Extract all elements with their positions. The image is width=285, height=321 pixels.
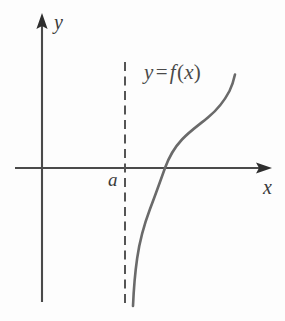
asymptote-value-label: a (108, 170, 118, 189)
curve-label-arg: x (184, 60, 194, 84)
curve-label-equals: = (154, 60, 170, 84)
curve-label-y: y (144, 60, 154, 84)
figure-canvas (0, 0, 285, 321)
function-curve (133, 75, 235, 307)
curve-equation-label: y=f(x) (144, 62, 201, 83)
y-axis-label: y (54, 12, 63, 32)
curve-label-f: f (170, 60, 177, 84)
math-figure: y x a y=f(x) (0, 0, 285, 321)
x-axis-label: x (263, 177, 272, 197)
curve-label-close-paren: ) (194, 60, 201, 84)
